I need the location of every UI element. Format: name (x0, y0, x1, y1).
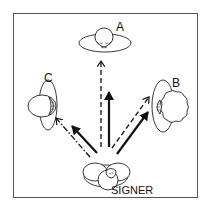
arrow-signer-to-b-solid (117, 112, 148, 154)
label-b: B (172, 77, 180, 89)
diagram-canvas (0, 0, 213, 214)
arrow-signer-to-c-dashdot (56, 118, 90, 157)
label-a: A (116, 21, 124, 33)
label-c: C (44, 72, 53, 84)
label-signer: SIGNER (111, 184, 153, 196)
arrow-signer-to-c-solid (72, 126, 97, 153)
arrow-signer-to-b-dashed (112, 97, 149, 148)
person-b-icon (152, 80, 189, 132)
person-c-icon (28, 80, 57, 130)
